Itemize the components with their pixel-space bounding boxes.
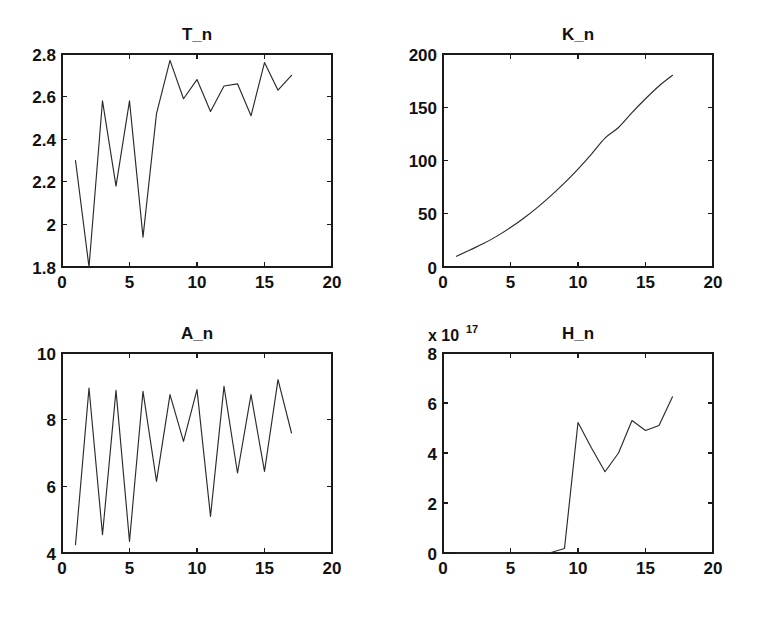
y-tick-label: 2.8: [32, 46, 56, 65]
subplot-t-n: T_n 1.8 2 2.2 2.4 2.6 2.8: [0, 0, 381, 309]
y-ticks-h-n: [443, 353, 713, 553]
y-axis-exponent-label: x 10: [428, 327, 459, 344]
x-tick-label: 0: [438, 559, 447, 578]
x-tick-label: 20: [323, 273, 342, 292]
y-axis-exponent-value: 17: [466, 323, 478, 335]
x-tick-label: 5: [125, 273, 134, 292]
data-series-a-n: [76, 380, 292, 545]
x-ticks-h-n: [443, 353, 713, 553]
x-tick-label: 0: [57, 559, 66, 578]
x-tick-label: 0: [57, 273, 66, 292]
x-tick-label: 5: [125, 559, 134, 578]
y-tick-label: 0: [428, 259, 437, 278]
y-tick-label: 10: [37, 345, 56, 364]
y-tick-label: 100: [409, 152, 437, 171]
x-tick-labels-k-n: 0 5 10 15 20: [438, 273, 722, 292]
y-tick-label: 6: [428, 395, 437, 414]
x-ticks-t-n: [62, 54, 332, 267]
x-tick-label: 20: [704, 559, 723, 578]
x-ticks-a-n: [62, 353, 332, 553]
x-tick-label: 20: [704, 273, 723, 292]
x-tick-label: 10: [188, 273, 207, 292]
data-series-h-n: [457, 397, 673, 553]
y-tick-label: 8: [47, 411, 56, 430]
x-tick-label: 15: [255, 559, 274, 578]
x-tick-labels-a-n: 0 5 10 15 20: [57, 559, 341, 578]
plot-title-a-n: A_n: [181, 324, 213, 343]
y-tick-labels-h-n: 0 2 4 6 8: [428, 345, 438, 564]
x-tick-label: 10: [569, 273, 588, 292]
y-tick-label: 50: [418, 205, 437, 224]
y-tick-label: 4: [428, 445, 438, 464]
x-tick-label: 15: [636, 273, 655, 292]
y-ticks-k-n: [443, 54, 713, 267]
subplot-h-n: H_n x 10 17 0 2 4 6 8: [381, 309, 762, 618]
y-tick-labels-k-n: 0 50 100 150 200: [409, 46, 437, 278]
x-tick-labels-h-n: 0 5 10 15 20: [438, 559, 722, 578]
y-tick-label: 2: [47, 216, 56, 235]
subplot-a-n: A_n 4 6 8 10: [0, 309, 381, 618]
y-ticks-a-n: [62, 353, 332, 553]
y-tick-label: 6: [47, 478, 56, 497]
y-ticks-t-n: [62, 54, 67, 267]
plot-title-h-n: H_n: [562, 324, 594, 343]
plot-frame-k-n: [443, 54, 713, 267]
x-tick-label: 0: [438, 273, 447, 292]
subplot-k-n: K_n 0 50 100 150 200: [381, 0, 762, 309]
plot-title-t-n: T_n: [182, 25, 212, 44]
x-tick-label: 20: [323, 559, 342, 578]
x-ticks-k-n: [443, 54, 713, 267]
plot-frame-h-n: [443, 353, 713, 553]
y-tick-label: 1.8: [32, 259, 56, 278]
x-tick-label: 5: [506, 559, 515, 578]
plot-title-k-n: K_n: [562, 25, 594, 44]
x-tick-label: 15: [255, 273, 274, 292]
y-tick-label: 200: [409, 46, 437, 65]
plot-frame-t-n: [62, 54, 332, 267]
y-tick-label: 2.6: [32, 88, 56, 107]
y-tick-label: 2: [428, 495, 437, 514]
x-tick-label: 10: [569, 559, 588, 578]
x-tick-labels-t-n: 0 5 10 15 20: [57, 273, 341, 292]
plot-frame-a-n: [62, 353, 332, 553]
y-tick-labels-t-n: 1.8 2 2.2 2.4 2.6 2.8: [32, 46, 56, 278]
y-tick-label: 8: [428, 345, 437, 364]
x-tick-label: 15: [636, 559, 655, 578]
y-tick-label: 2.2: [32, 173, 56, 192]
x-tick-label: 10: [188, 559, 207, 578]
data-series-t-n: [76, 60, 292, 267]
y-tick-label: 4: [47, 545, 57, 564]
y-tick-label: 2.4: [32, 131, 56, 150]
y-tick-label: 0: [428, 545, 437, 564]
figure-canvas: T_n 1.8 2 2.2 2.4 2.6 2.8: [0, 0, 762, 618]
x-tick-label: 5: [506, 273, 515, 292]
data-series-k-n: [457, 75, 673, 256]
y-tick-label: 150: [409, 99, 437, 118]
y-tick-labels-a-n: 4 6 8 10: [37, 345, 56, 564]
